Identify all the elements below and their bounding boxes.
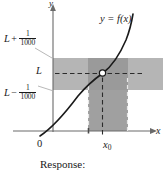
limit-point-marker	[99, 70, 105, 76]
lower-bound-fraction: 1 1000	[19, 84, 36, 101]
leader-line-lower	[38, 86, 52, 91]
origin-label: 0	[37, 139, 42, 150]
y-axis-label: y	[49, 0, 53, 8]
response-caption: Response:	[40, 158, 85, 170]
delta-band-vertical-lower	[88, 90, 128, 131]
limit-definition-figure: L + 1 1000 L L − 1 1000 y = f(x) x0 0	[0, 0, 166, 174]
upper-bound-numerator: 1	[25, 30, 31, 38]
lower-bound-variable: L	[4, 88, 10, 99]
lower-bound-operator: −	[11, 88, 17, 98]
leader-line-upper	[35, 48, 52, 58]
lower-bound-numerator: 1	[25, 84, 31, 92]
upper-bound-operator: +	[11, 34, 17, 44]
x0-tick-label: x0	[103, 140, 111, 152]
upper-bound-variable: L	[4, 34, 10, 45]
upper-bound-label: L + 1 1000	[4, 29, 36, 48]
lower-bound-denominator: 1000	[19, 93, 36, 101]
curve-label: y = f(x)	[100, 14, 132, 25]
x0-subscript: 0	[108, 143, 112, 152]
limit-value-label: L	[36, 66, 42, 77]
upper-bound-fraction: 1 1000	[19, 30, 36, 47]
upper-bound-denominator: 1000	[19, 39, 36, 47]
lower-bound-label: L − 1 1000	[4, 83, 36, 102]
x-axis-label: x	[156, 126, 160, 136]
